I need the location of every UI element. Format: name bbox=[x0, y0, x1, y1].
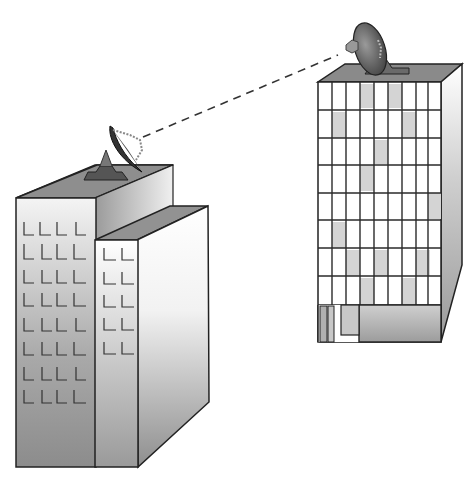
right-side bbox=[441, 64, 462, 342]
left-building bbox=[16, 126, 209, 467]
lobby-block bbox=[359, 305, 441, 342]
right-ground-floor bbox=[318, 305, 441, 342]
right-building bbox=[318, 19, 462, 342]
annex-side bbox=[137, 206, 209, 467]
entrance-door bbox=[341, 305, 359, 335]
link-dashed-line bbox=[143, 55, 338, 137]
left-main-front bbox=[16, 198, 96, 467]
scene bbox=[0, 0, 476, 483]
